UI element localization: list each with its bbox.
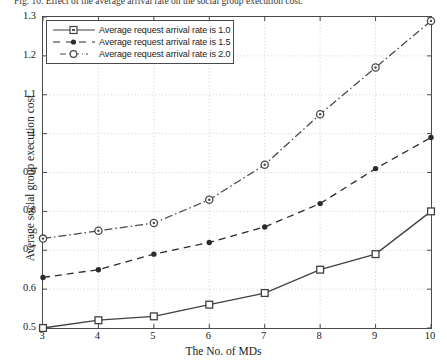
legend: Average request arrival rate is 1.0 Aver…	[46, 20, 234, 64]
legend-item-label: Average request arrival rate is 1.0	[96, 25, 230, 35]
legend-item-label: Average request arrival rate is 2.0	[96, 49, 230, 59]
legend-item: Average request arrival rate is 1.0	[49, 24, 231, 36]
x-tick-label: 5	[150, 330, 155, 341]
legend-sample-square-solid-icon	[52, 24, 96, 36]
x-tick-label: 8	[317, 330, 322, 341]
x-tick-label: 9	[372, 330, 377, 341]
legend-sample-circle-dashdot-icon	[52, 48, 96, 60]
legend-item: Average request arrival rate is 2.0	[49, 48, 231, 60]
x-axis-title: The No. of MDs	[0, 345, 447, 357]
legend-sample-dot-dashed-icon	[52, 36, 96, 48]
x-tick-label: 10	[425, 330, 436, 341]
x-tick-label: 3	[39, 330, 44, 341]
x-tick-label: 6	[206, 330, 211, 341]
figure: Fig. 10. Effect of the average arrival r…	[0, 0, 447, 364]
y-axis-title: Average social group execution cost	[24, 18, 36, 338]
x-tick-label: 7	[261, 330, 266, 341]
legend-item: Average request arrival rate is 1.5	[49, 36, 231, 48]
x-tick-label: 4	[95, 330, 100, 341]
legend-item-label: Average request arrival rate is 1.5	[96, 37, 230, 47]
